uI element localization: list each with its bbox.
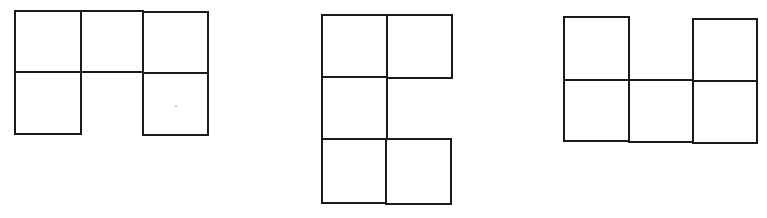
figure-2-cell xyxy=(322,77,387,139)
figure-3-cell xyxy=(693,81,757,143)
figure-2-cell xyxy=(322,15,387,77)
figure-2 xyxy=(322,15,452,204)
figure-3 xyxy=(564,17,757,143)
figure-3-cell xyxy=(564,80,629,141)
figure-1 xyxy=(15,11,208,135)
figure-2-cell xyxy=(322,139,386,203)
figure-3-cell xyxy=(564,17,629,80)
figure-3-cell xyxy=(693,19,757,81)
figure-1-cell xyxy=(143,12,208,73)
scan-speck xyxy=(175,105,177,107)
figure-1-cell xyxy=(81,11,143,72)
figure-3-cell xyxy=(629,80,693,142)
figure-1-cell xyxy=(15,72,81,134)
polyomino-diagram xyxy=(0,0,767,218)
figure-1-cell xyxy=(143,73,208,135)
figure-2-cell xyxy=(386,139,451,204)
figure-2-cell xyxy=(387,15,452,78)
figure-1-cell xyxy=(15,11,81,72)
